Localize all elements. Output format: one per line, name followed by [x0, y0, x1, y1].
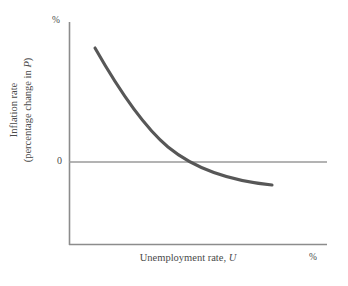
y-axis-unit-label: % — [52, 16, 60, 26]
y-axis-title-variable-p: P — [22, 61, 33, 67]
y-axis-title-line-1: Inflation rate — [7, 50, 21, 170]
chart-canvas — [0, 0, 348, 286]
y-axis-title-line-2-prefix: (percentage change in — [22, 68, 33, 163]
phillips-curve-figure: % 0 % Inflation rate (percentage change … — [0, 0, 348, 286]
y-axis-title-line-2: (percentage change in P) — [21, 50, 35, 170]
y-axis-title-line-2-suffix: ) — [22, 58, 33, 62]
x-axis-title-prefix: Unemployment rate, — [140, 252, 229, 263]
phillips-curve-line — [95, 48, 272, 185]
x-axis-title-variable-u: U — [229, 252, 237, 263]
x-axis-title: Unemployment rate, U — [0, 253, 348, 264]
y-axis-title: Inflation rate (percentage change in P) — [7, 50, 37, 170]
y-axis-zero-tick-label: 0 — [57, 156, 62, 166]
